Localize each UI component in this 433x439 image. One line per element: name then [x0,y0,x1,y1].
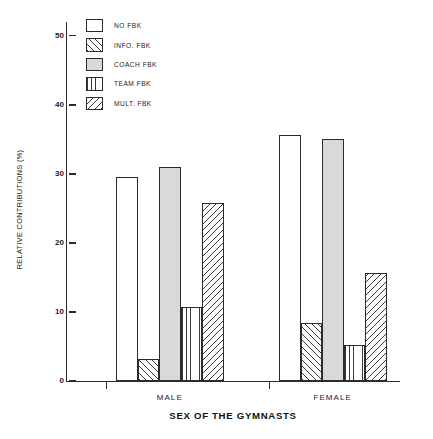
y-axis-title: RELATIVE CONTRIBUTIONS (%) [15,95,24,325]
legend-label: MULT. FBK [114,100,152,107]
legend-label: COACH FBK [114,61,157,68]
bar-chart: RELATIVE CONTRIBUTIONS (%) 01020304050 M… [0,0,433,439]
legend-swatch [86,19,103,33]
y-axis-tick: 20 [32,238,76,248]
x-axis-group-tick [269,381,270,389]
y-axis-tick-label: 50 [55,31,64,41]
legend-item: TEAM FBK [86,74,198,93]
legend-label: INFO. FBK [114,42,151,49]
y-axis-tick-mark [69,35,76,36]
x-axis-line [66,381,400,382]
y-axis-tick: 30 [32,169,76,179]
legend-swatch [86,97,103,111]
y-axis-tick-label: 10 [55,307,64,317]
bar [138,359,160,381]
bar [202,203,224,381]
legend-item: INFO. FBK [86,35,198,54]
legend-swatch [86,38,103,52]
y-axis-line [66,22,67,381]
chart-legend: NO FBKINFO. FBKCOACH FBKTEAM FBKMULT. FB… [86,16,198,113]
y-axis-tick: 10 [32,307,76,317]
bar [159,167,181,381]
y-axis-tick-label: 40 [55,100,64,110]
bar [116,177,138,381]
legend-item: MULT. FBK [86,94,198,113]
y-axis-tick-label: 30 [55,169,64,179]
y-axis-tick-label: 20 [55,238,64,248]
x-axis-group-label: FEMALE [273,393,393,402]
bar [322,139,344,381]
bar [301,323,323,381]
bar [279,135,301,381]
legend-item: NO FBK [86,16,198,35]
y-axis-tick-mark [69,104,76,105]
y-axis-tick-mark [69,173,76,174]
bar [344,345,366,381]
y-axis-tick: 40 [32,100,76,110]
legend-label: TEAM FBK [114,80,151,87]
y-axis-tick-mark [69,380,76,381]
y-axis-tick-mark [69,311,76,312]
y-axis-tick-label: 0 [60,376,64,386]
bar [365,273,387,381]
x-axis-group-label: MALE [110,393,230,402]
y-axis-tick: 0 [32,376,76,386]
x-axis-group-tick [106,381,107,389]
bar [181,307,203,381]
legend-label: NO FBK [114,22,142,29]
y-axis-tick-mark [69,242,76,243]
legend-swatch [86,58,103,72]
legend-item: COACH FBK [86,55,198,74]
x-axis-title: SEX OF THE GYMNASTS [66,410,400,421]
legend-swatch [86,77,103,91]
y-axis-tick: 50 [32,31,76,41]
